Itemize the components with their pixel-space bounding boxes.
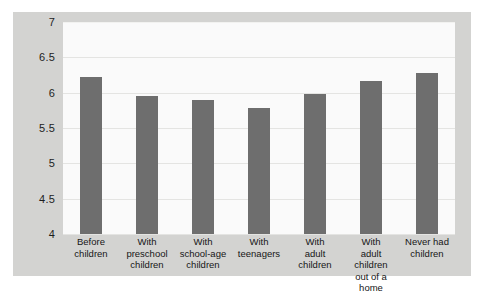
y-axis-tick-label: 6 [13,87,55,99]
x-axis-category-label: Withadult childrenout of a home [343,236,399,294]
category-label-line: With [231,236,287,248]
x-axis-category-label: Beforechildren [63,236,119,259]
bar-slot [231,22,287,234]
bar-slot [399,22,455,234]
bar [192,100,214,234]
y-axis-tick-label: 6.5 [13,51,55,63]
bar [360,81,382,234]
category-label-line: children [399,248,455,260]
category-label-line: adult children [343,248,399,271]
x-axis-category-label: Withadultchildren [287,236,343,271]
bar-slot [175,22,231,234]
y-axis-tick-label: 5.5 [13,122,55,134]
y-axis-tick-label: 4.5 [13,193,55,205]
y-axis-tick-label: 4 [13,228,55,240]
category-label-line: children [63,248,119,260]
y-axis-tick-label: 7 [13,16,55,28]
bar [304,94,326,234]
category-label-line: preschool [119,248,175,260]
x-axis-category-label: Never hadchildren [399,236,455,259]
chart-figure: 76.565.554.54 BeforechildrenWithpreschoo… [13,12,471,276]
bar [80,77,102,234]
x-axis-category-label: Withteenagers [231,236,287,259]
x-axis-category-label: Withpreschoolchildren [119,236,175,271]
category-label-line: school-age [175,248,231,260]
bar [416,73,438,234]
x-axis-category-labels: BeforechildrenWithpreschoolchildrenWiths… [63,236,455,276]
category-label-line: adult [287,248,343,260]
category-label-line: teenagers [231,248,287,260]
category-label-line: Never had [399,236,455,248]
bar-series [63,22,455,234]
bar-slot [343,22,399,234]
y-axis-tick-label: 5 [13,157,55,169]
category-label-line: With [175,236,231,248]
category-label-line: children [287,259,343,271]
x-axis-category-label: Withschool-agechildren [175,236,231,271]
category-label-line: Before [63,236,119,248]
category-label-line: With [287,236,343,248]
bar-slot [63,22,119,234]
category-label-line: With [119,236,175,248]
bar-slot [287,22,343,234]
category-label-line: With [343,236,399,248]
bar [136,96,158,235]
bar [248,108,270,234]
category-label-line: out of a home [343,271,399,294]
bar-slot [119,22,175,234]
category-label-line: children [119,259,175,271]
category-label-line: children [175,259,231,271]
gridline [63,234,455,235]
